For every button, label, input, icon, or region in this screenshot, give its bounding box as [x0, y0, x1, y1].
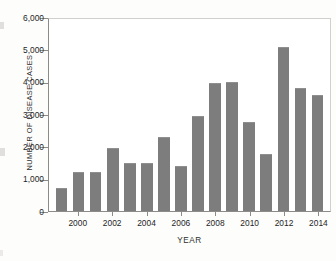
bar [260, 154, 272, 211]
bar [175, 166, 187, 211]
bar [192, 116, 204, 211]
bar [107, 148, 119, 211]
bar [158, 137, 170, 211]
bar [295, 88, 307, 212]
page-edge-artifact [0, 250, 3, 256]
bar-slot [87, 19, 104, 211]
y-axis-tick-label: 2,000 [23, 142, 44, 152]
x-axis-tick-label: 2012 [275, 218, 294, 228]
bar [312, 95, 324, 211]
bar-slot [190, 19, 207, 211]
y-axis-tick-label: 4,000 [23, 77, 44, 87]
x-axis-tick [147, 212, 148, 216]
y-axis-tick-label: 6,000 [23, 13, 44, 23]
bar [226, 82, 238, 211]
bar-slot [292, 19, 309, 211]
y-axis-tick-label: 1,000 [23, 174, 44, 184]
x-axis-tick-label: 2010 [240, 218, 259, 228]
bar-slot [224, 19, 241, 211]
x-axis-tick-label: 2004 [137, 218, 156, 228]
bar-slot [70, 19, 87, 211]
x-axis-tick-label: 2008 [206, 218, 225, 228]
bar-chart-figure: NUMBER OF DISEASE CASES 01,0002,0003,000… [0, 0, 336, 261]
y-axis-tick-label: 5,000 [23, 45, 44, 55]
y-axis-tick-label: 3,000 [23, 110, 44, 120]
x-axis-tick [318, 212, 319, 216]
x-axis-tick-label: 2006 [172, 218, 191, 228]
bar [124, 163, 136, 212]
bar [73, 172, 85, 211]
bar [141, 163, 153, 212]
bar-slot [121, 19, 138, 211]
bar-slot [53, 19, 70, 211]
x-axis-tick [284, 212, 285, 216]
bar-slot [309, 19, 326, 211]
x-axis-tick-label: 2014 [309, 218, 328, 228]
bar [278, 47, 290, 211]
bar [209, 83, 221, 211]
x-axis-tick-label: 2002 [103, 218, 122, 228]
y-axis-tick-label: 0 [39, 207, 44, 217]
x-axis-tick [112, 212, 113, 216]
page-edge-artifact [0, 148, 5, 156]
plot-area [48, 18, 331, 212]
bar [243, 122, 255, 211]
bar [90, 172, 102, 211]
bar-slot [241, 19, 258, 211]
bar-slot [207, 19, 224, 211]
bar-slot [155, 19, 172, 211]
x-axis-tick [215, 212, 216, 216]
bar [56, 188, 68, 211]
bar-slot [172, 19, 189, 211]
bar-slot [258, 19, 275, 211]
x-axis-tick [181, 212, 182, 216]
x-axis-tick [250, 212, 251, 216]
bar-slot [275, 19, 292, 211]
bar-series [49, 19, 330, 211]
bar-slot [104, 19, 121, 211]
page-edge-artifact [0, 22, 4, 29]
bar-slot [138, 19, 155, 211]
x-axis-tick-label: 2000 [68, 218, 87, 228]
x-axis-tick [78, 212, 79, 216]
x-axis-title: YEAR [48, 236, 331, 245]
